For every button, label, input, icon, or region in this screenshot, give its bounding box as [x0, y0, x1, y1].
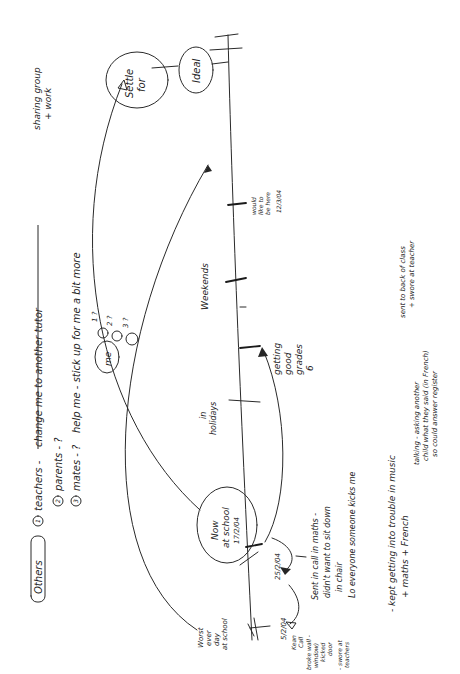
- svg-text:day: day: [213, 632, 221, 646]
- tick-25-2: [240, 552, 258, 565]
- me-circle-2: [112, 331, 122, 341]
- svg-text:broke wall -: broke wall -: [305, 635, 312, 670]
- now-at-school-label: Now at school 17/2/04: [210, 507, 241, 548]
- svg-text:Worst: Worst: [197, 627, 205, 648]
- svg-text:Settle: Settle: [124, 69, 135, 98]
- svg-text:like to: like to: [257, 196, 264, 215]
- svg-text:12/3/04: 12/3/04: [275, 190, 282, 213]
- arrow-worst-to-weekends: [125, 165, 208, 630]
- tick-worst-3: [250, 626, 270, 628]
- grades-label: getting good grades 6: [272, 342, 315, 375]
- svg-text:ever: ever: [205, 629, 213, 646]
- arrow-now-to-settle: [92, 84, 200, 510]
- me-circle-3: [126, 333, 138, 345]
- middle-notes: Sent in call in maths - didn't want to s…: [311, 471, 357, 600]
- me-mark-1: 1 ?: [91, 311, 99, 322]
- parents-label: parents - ?: [53, 437, 64, 492]
- svg-text:talking - asking another: talking - asking another: [413, 381, 421, 465]
- teachers-label: teachers -: [33, 460, 44, 511]
- svg-text:5/2/04: 5/2/04: [280, 617, 288, 640]
- svg-text:at school: at school: [221, 507, 231, 548]
- svg-text:would: would: [250, 197, 257, 215]
- tick-would-like: [228, 203, 246, 205]
- svg-text:teachers: teachers: [343, 642, 350, 668]
- settle-for-label: Settle for: [124, 69, 147, 98]
- tick-worst-2: [254, 618, 258, 640]
- tick-now: [246, 544, 262, 547]
- svg-text:Weekends: Weekends: [200, 263, 210, 310]
- svg-text:Ideal: Ideal: [191, 58, 202, 83]
- timeline-end-bar-2: [210, 48, 242, 50]
- arrow-now-to-grades: [264, 352, 283, 542]
- svg-text:sent to back of class: sent to back of class: [399, 246, 407, 318]
- svg-text:2 ?: 2 ?: [106, 315, 114, 326]
- weekends-label: Weekends: [200, 263, 210, 310]
- svg-text:child what they said (in Frenc: child what they said (in French): [422, 350, 430, 461]
- svg-text:17/2/04: 17/2/04: [233, 517, 241, 544]
- svg-text:good: good: [283, 352, 293, 375]
- bracket-25-2: [296, 556, 306, 557]
- tick-holidays: [229, 400, 260, 402]
- date-25-2-04: 25/2/04: [274, 553, 282, 580]
- mates-label: mates - ?: [71, 444, 82, 491]
- worst-day-label: Worst ever day at school: [197, 618, 229, 650]
- svg-text:holidays: holidays: [209, 402, 218, 435]
- tick-grades: [240, 346, 260, 348]
- others-item-parents: 2 parents - ?: [53, 437, 64, 506]
- sharing-group-note: sharing group + work: [32, 67, 53, 130]
- left-notes: Kean Call broke wall - window) kicked do…: [290, 635, 350, 670]
- svg-text:window): window): [312, 643, 319, 668]
- svg-text:+ swore at teacher: + swore at teacher: [408, 240, 416, 308]
- others-heading-group: Others: [31, 536, 45, 602]
- me-mark-3: 3 ?: [122, 317, 130, 328]
- bottom-notes-main: - kept getting into trouble in music + m…: [387, 455, 410, 612]
- svg-text:so could answer register: so could answer register: [431, 370, 439, 457]
- svg-text:3 ?: 3 ?: [122, 317, 130, 328]
- svg-text:Call: Call: [297, 636, 304, 648]
- me-label-group: me: [103, 351, 113, 366]
- timeline-end-bar-1: [215, 34, 238, 37]
- arrow-5-2-loop: [289, 585, 299, 624]
- svg-text:Now: Now: [210, 520, 220, 540]
- svg-text:getting: getting: [272, 342, 282, 375]
- svg-text:be here: be here: [264, 192, 271, 215]
- svg-text:Sent in call in maths -: Sent in call in maths -: [311, 513, 320, 600]
- svg-text:at school: at school: [221, 618, 229, 650]
- ideal-label: Ideal: [191, 58, 202, 83]
- num-3: 3: [72, 499, 79, 503]
- svg-text:25/2/04: 25/2/04: [274, 553, 282, 580]
- french-note: talking - asking another child what they…: [413, 350, 439, 465]
- svg-text:in chair: in chair: [335, 562, 344, 592]
- sharing-group-line2: + work: [43, 87, 53, 120]
- svg-text:Lo everyone someone kicks me: Lo everyone someone kicks me: [348, 471, 357, 598]
- svg-text:- swore at: - swore at: [336, 639, 343, 670]
- svg-text:Kean: Kean: [290, 635, 297, 650]
- svg-text:kicked: kicked: [319, 642, 326, 662]
- timeline-diagram-canvas: Others 1 teachers - change me to another…: [0, 0, 460, 674]
- svg-text:didn't want to sit down: didn't want to sit down: [323, 506, 332, 598]
- ideal-axis-link: [212, 62, 228, 64]
- svg-text:grades: grades: [294, 344, 304, 375]
- svg-text:+ maths + French: + maths + French: [400, 515, 410, 598]
- me-mark-2: 2 ?: [106, 315, 114, 326]
- music-note: sent to back of class + swore at teacher: [399, 240, 416, 318]
- would-like-label: would like to be here 12/3/04: [250, 190, 282, 215]
- svg-text:door: door: [326, 642, 333, 656]
- others-heading: Others: [33, 560, 44, 594]
- others-item-teachers: 1 teachers - change me to another tutor: [33, 225, 44, 526]
- svg-text:for: for: [136, 77, 147, 92]
- timeline-diagram: Others 1 teachers - change me to another…: [0, 0, 460, 674]
- sharing-group-line1: sharing group: [32, 67, 42, 130]
- svg-text:- kept getting into trouble in: - kept getting into trouble in music: [387, 455, 397, 612]
- timeline-axis: [228, 35, 252, 640]
- svg-text:in: in: [199, 412, 208, 419]
- holidays-label: in holidays: [199, 402, 218, 435]
- num-1: 1: [34, 519, 41, 523]
- svg-text:1 ?: 1 ?: [91, 311, 99, 322]
- me-label: me: [103, 351, 113, 366]
- mates-note: help me - stick up for me a bit more: [71, 252, 82, 433]
- svg-text:6: 6: [305, 365, 315, 371]
- others-item-mates: 3 mates - ? help me - stick up for me a …: [71, 252, 82, 506]
- num-2: 2: [54, 499, 61, 503]
- arrowhead-grades: [258, 347, 268, 357]
